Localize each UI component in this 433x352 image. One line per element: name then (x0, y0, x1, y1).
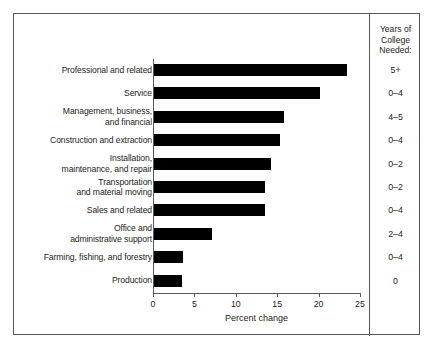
category-label: Professional and related (14, 65, 152, 75)
bar (154, 111, 284, 123)
years-of-college-header-line1: Years of (370, 24, 421, 35)
x-axis-tick-label: 0 (143, 299, 163, 310)
category-label-line: Farming, fishing, and forestry (14, 252, 152, 262)
x-axis-tick-label: 25 (350, 299, 370, 310)
x-axis-tick-label: 5 (184, 299, 204, 310)
category-label-column: Professional and relatedServiceManagemen… (14, 59, 152, 293)
x-axis-tick (360, 293, 361, 297)
category-label: Service (14, 88, 152, 98)
category-label-line: Construction and extraction (14, 135, 152, 145)
bar (154, 64, 347, 76)
category-label: Office andadministrative support (14, 223, 152, 244)
category-label: Farming, fishing, and forestry (14, 252, 152, 262)
category-label-line: and financial (14, 117, 152, 127)
years-of-college-values: 5+0–44–50–40–20–20–42–40–40 (370, 59, 421, 293)
bar (154, 158, 271, 170)
category-label: Production (14, 275, 152, 285)
bar (154, 87, 320, 99)
category-label-line: Transportation (14, 177, 152, 187)
category-label-line: Management, business, (14, 106, 152, 116)
x-axis-tick (236, 293, 237, 297)
years-of-college-value: 5+ (370, 64, 421, 76)
category-label: Transportationand material moving (14, 177, 152, 198)
category-label-line: and material moving (14, 187, 152, 197)
x-axis-tick (319, 293, 320, 297)
years-of-college-value: 0–4 (370, 251, 421, 263)
years-of-college-value: 0–4 (370, 87, 421, 99)
category-label-line: Sales and related (14, 205, 152, 215)
category-label-line: Installation, (14, 153, 152, 163)
x-axis-tick (277, 293, 278, 297)
category-label: Sales and related (14, 205, 152, 215)
bar (154, 228, 212, 240)
bar (154, 275, 182, 287)
years-of-college-header-line3: Needed: (370, 45, 421, 56)
x-axis-tick (194, 293, 195, 297)
years-of-college-value: 0 (370, 275, 421, 287)
years-of-college-value: 0–2 (370, 158, 421, 170)
x-axis-title: Percent change (153, 313, 360, 323)
x-axis-tick (153, 293, 154, 297)
category-label-line: Office and (14, 223, 152, 233)
years-of-college-column: Years of College Needed: 5+0–44–50–40–20… (370, 14, 421, 336)
category-label-line: Service (14, 88, 152, 98)
category-label: Management, business,and financial (14, 106, 152, 127)
years-of-college-value: 0–4 (370, 204, 421, 216)
years-of-college-value: 0–2 (370, 181, 421, 193)
chart-frame: Professional and relatedServiceManagemen… (13, 13, 420, 335)
years-of-college-value: 4–5 (370, 111, 421, 123)
x-axis-line (153, 293, 360, 294)
years-of-college-value: 0–4 (370, 134, 421, 146)
x-axis-tick-label: 10 (226, 299, 246, 310)
bar (154, 181, 265, 193)
x-axis-tick-label: 20 (309, 299, 329, 310)
category-label-line: Professional and related (14, 65, 152, 75)
bar-series (154, 59, 369, 293)
bar (154, 204, 265, 216)
plot-region: Professional and relatedServiceManagemen… (14, 14, 369, 336)
category-label-line: Production (14, 275, 152, 285)
years-of-college-header: Years of College Needed: (370, 24, 421, 56)
category-label: Construction and extraction (14, 135, 152, 145)
years-of-college-value: 2–4 (370, 228, 421, 240)
chart-figure: Professional and relatedServiceManagemen… (0, 0, 433, 352)
category-label-line: administrative support (14, 234, 152, 244)
x-axis-tick-label: 15 (267, 299, 287, 310)
years-of-college-header-line2: College (370, 35, 421, 46)
category-label-line: maintenance, and repair (14, 164, 152, 174)
bar (154, 251, 183, 263)
category-label: Installation,maintenance, and repair (14, 153, 152, 174)
bar (154, 134, 280, 146)
